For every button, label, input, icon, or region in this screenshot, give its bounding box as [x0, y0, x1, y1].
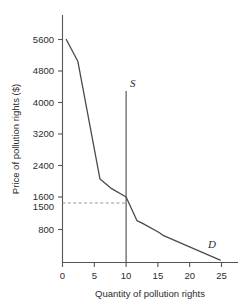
y-axis-title: Price of pollution rights ($)	[10, 84, 21, 194]
x-axis-label-15: 15	[153, 270, 164, 281]
demand-curve-label: D	[207, 238, 216, 250]
y-tick-labels: 800 1600 1500 2400 3200 4000 4800 5600	[33, 34, 54, 235]
y-axis-label-4000: 4000	[33, 97, 54, 108]
x-axis-label-10: 10	[121, 270, 132, 281]
x-axis-label-25: 25	[216, 270, 227, 281]
axis-lines	[63, 15, 239, 263]
x-axis-label-0: 0	[60, 270, 65, 281]
x-axis-title: Quantity of pollution rights	[95, 288, 205, 299]
y-tick-marks	[58, 40, 63, 230]
x-axis-label-20: 20	[184, 270, 195, 281]
chart-canvas: 800 1600 1500 2400 3200 4000 4800 5600 0…	[0, 0, 246, 308]
x-axis-label-5: 5	[92, 270, 97, 281]
y-axis-label-800: 800	[38, 224, 54, 235]
axes-group	[63, 15, 239, 263]
x-tick-marks	[63, 263, 222, 268]
y-axis-label-5600: 5600	[33, 34, 54, 45]
pollution-rights-chart: 800 1600 1500 2400 3200 4000 4800 5600 0…	[0, 0, 246, 308]
demand-curve-line	[66, 40, 220, 261]
x-tick-labels: 0 5 10 15 20 25	[60, 270, 227, 281]
y-axis-label-2400: 2400	[33, 160, 54, 171]
supply-curve-label: S	[130, 77, 136, 89]
y-axis-label-3200: 3200	[33, 128, 54, 139]
y-axis-label-1500: 1500	[33, 201, 54, 212]
y-axis-label-4800: 4800	[33, 65, 54, 76]
